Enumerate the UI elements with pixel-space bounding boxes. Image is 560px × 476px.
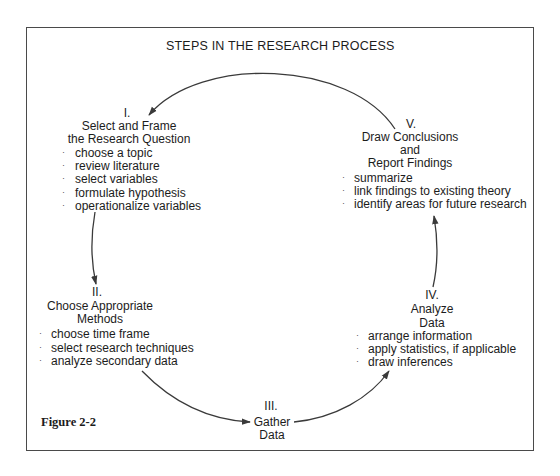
step-1-heading-line-2: the Research Question [68,133,191,146]
bullet-icon: · [342,171,345,184]
step-2-heading-line-2: Methods [77,313,123,326]
step-4-heading-line-1: Analyze [411,303,454,316]
step-2-item: choose time frame [51,328,150,341]
step-5-item: identify areas for future research [354,198,527,211]
step-4-item: draw inferences [368,356,453,369]
bullet-icon: · [356,329,359,342]
step-5-heading-line-3: Report Findings [368,157,453,170]
step-2-numeral: II. [92,286,102,299]
step-2-item: analyze secondary data [51,355,178,368]
bullet-icon: · [39,354,42,367]
bullet-icon: · [356,355,359,368]
bullet-icon: · [39,327,42,340]
bullet-icon: · [342,197,345,210]
diagram-title: STEPS IN THE RESEARCH PROCESS [166,40,395,53]
step-3-heading-line-2: Data [259,429,284,442]
bullet-icon: · [62,186,65,199]
figure-frame [26,27,534,451]
bullet-icon: · [62,159,65,172]
bullet-icon: · [39,341,42,354]
bullet-icon: · [356,342,359,355]
bullet-icon: · [62,172,65,185]
step-4-numeral: IV. [425,289,439,302]
bullet-icon: · [62,199,65,212]
step-1-item: operationalize variables [75,200,201,213]
bullet-icon: · [342,184,345,197]
figure-label: Figure 2-2 [41,416,96,429]
bullet-icon: · [62,146,65,159]
step-3-numeral: III. [264,400,277,413]
step-1-item: select variables [75,173,158,186]
